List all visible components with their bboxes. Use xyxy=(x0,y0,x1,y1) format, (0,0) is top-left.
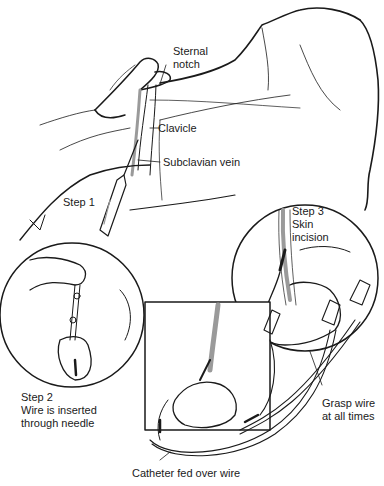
hand-top xyxy=(95,58,170,117)
label-catheter: Catheter fed over wire xyxy=(132,467,240,480)
label-subclavian-vein: Subclavian vein xyxy=(163,156,240,169)
label-step2: Step 2 Wire is inserted through needle xyxy=(21,391,97,430)
step2-inset xyxy=(0,243,144,387)
label-clavicle: Clavicle xyxy=(158,122,197,135)
label-grasp-wire: Grasp wire at all times xyxy=(322,397,375,423)
label-step3: Step 3 Skin incision xyxy=(292,205,329,244)
label-sternal-notch: Sternal notch xyxy=(173,45,208,71)
torso-outline xyxy=(40,8,379,210)
label-step1: Step 1 xyxy=(63,196,95,209)
syringe-step1 xyxy=(20,140,150,240)
seldinger-technique-illustration: Sternal notch Clavicle Subclavian vein S… xyxy=(0,0,384,486)
